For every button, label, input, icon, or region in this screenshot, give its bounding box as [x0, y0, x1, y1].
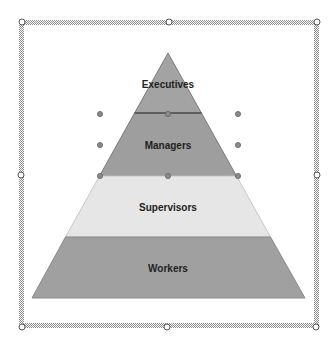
label-executives: Executives — [142, 79, 195, 90]
label-workers: Workers — [148, 263, 188, 274]
label-supervisors: Supervisors — [139, 202, 197, 213]
pyramid-diagram-canvas: Executives Managers Supervisors Workers — [0, 0, 335, 346]
label-managers: Managers — [145, 140, 192, 151]
